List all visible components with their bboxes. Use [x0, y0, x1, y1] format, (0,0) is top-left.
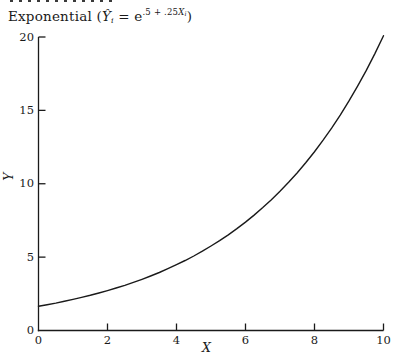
plot-area — [0, 0, 399, 364]
x-tick-label: 10 — [372, 334, 396, 347]
exponential-curve — [39, 36, 384, 307]
x-tick-label: 4 — [165, 334, 189, 347]
y-tick-label: 5 — [11, 251, 34, 264]
exponential-figure: Exponential (Ŷi = e.5 + .25Xi) 05101520 … — [0, 0, 399, 364]
x-tick-label: 8 — [303, 334, 327, 347]
x-tick-label: 0 — [27, 334, 51, 347]
x-tick-label: 6 — [234, 334, 258, 347]
x-tick-label: 2 — [96, 334, 120, 347]
y-tick-label: 15 — [11, 104, 34, 117]
x-axis-title: X — [202, 340, 211, 355]
y-tick-label: 20 — [11, 31, 34, 44]
y-axis-title: Y — [1, 172, 16, 180]
